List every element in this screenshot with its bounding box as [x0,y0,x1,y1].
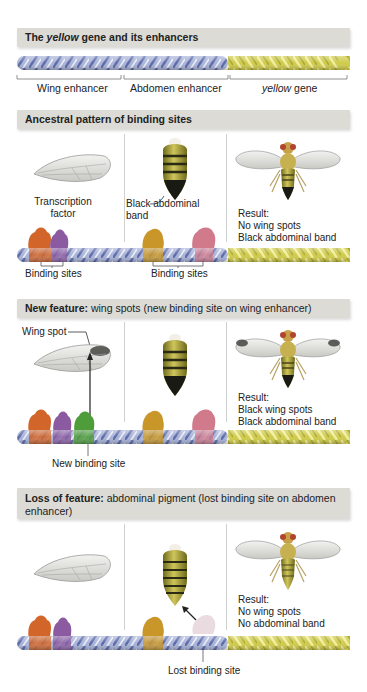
result-heading: Result: [238,392,336,404]
label-wing-spot: Wing spot [22,326,66,338]
label-yellow-gene: yellow gene [262,82,317,94]
section-header-loss-of-feature: Loss of feature: abdominal pigment (lost… [17,488,350,519]
dna-strand-gene-map [17,56,350,70]
wing-illustration [32,550,112,590]
wing-with-spot-illustration [32,340,112,380]
section-header-new-feature: New feature: wing spots (new binding sit… [17,299,350,318]
result-heading: Result: [238,208,336,220]
label-new-binding-site: New binding site [52,458,125,470]
dna-strand-new-feature [17,404,350,460]
result-heading: Result: [238,594,325,606]
title-text: The [25,31,47,43]
abdomen-illustration [160,136,190,202]
title-text-post: gene and its enhancers [79,31,199,43]
label-wing-enhancer: Wing enhancer [37,82,108,94]
dna-strand-loss-feature [17,610,350,666]
panel-title-rest: wing spots (new binding site on wing enh… [88,302,312,314]
abdomen-illustration [160,332,190,398]
panel-title-bold: Loss of feature: [25,492,104,504]
panel-title: Ancestral pattern of binding sites [25,113,192,125]
label-transcription-factor: Transcription factor [30,196,96,220]
label-abdomen-enhancer: Abdomen enhancer [130,82,222,94]
fly-illustration [232,140,344,202]
panel-title-bold: New feature: [25,302,88,314]
dna-strand-ancestral [17,222,350,266]
label-binding-sites-left: Binding sites [25,268,82,280]
section-header-ancestral: Ancestral pattern of binding sites [17,110,350,129]
abdomen-unpigmented-illustration [160,542,190,608]
label-gene-text: gene [291,82,317,94]
wing-illustration [32,150,112,190]
label-binding-sites-right: Binding sites [151,268,208,280]
gene-map-brackets [17,75,350,81]
section-header-gene: The yellow gene and its enhancers [17,28,350,47]
label-black-abdominal-band: Black abdominal band [126,198,206,222]
fly-with-spots-illustration [232,328,344,390]
label-yellow-italic: yellow [262,82,291,94]
label-lost-binding-site: Lost binding site [168,665,240,677]
title-italic: yellow [47,31,79,43]
fly-no-band-illustration [232,530,344,592]
